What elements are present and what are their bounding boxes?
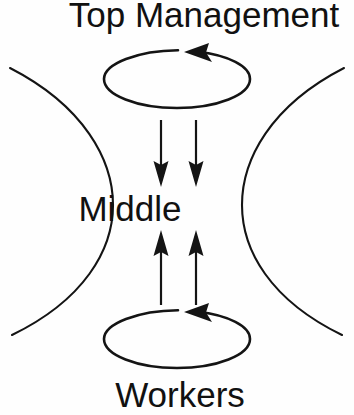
label-workers: Workers xyxy=(115,375,245,414)
label-middle: Middle xyxy=(78,189,181,228)
label-top-management: Top Management xyxy=(69,0,340,34)
organizational-feedback-diagram: Top Management Middle Workers xyxy=(0,0,354,415)
diagram-root: Top Management Middle Workers xyxy=(0,0,354,415)
